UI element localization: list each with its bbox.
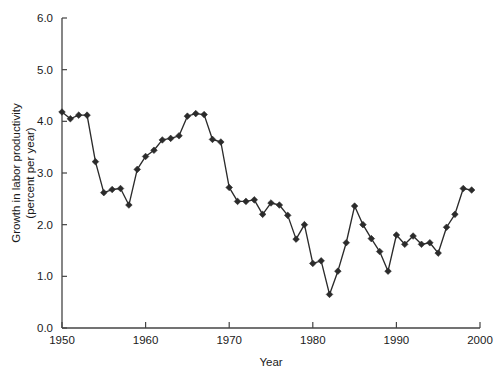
data-point: 1998: 2.7 [460,185,467,192]
y-tick-label-1.0: 1.0 [37,270,53,282]
x-tick-label-1970: 1970 [216,334,242,346]
data-point: 1996: 1.95 [443,224,450,231]
y-tick-label-0.0: 0.0 [37,322,53,334]
data-point: 1959: 3.07 [134,166,141,173]
data-point: 1957: 2.7 [117,185,124,192]
data-point: 1969: 3.6 [218,139,225,146]
line-chart: 0.01.02.03.04.05.06.01950196019701980199… [0,0,503,372]
chart-figure: 0.01.02.03.04.05.06.01950196019701980199… [0,0,503,372]
data-point: 1981: 1.3 [318,258,325,265]
data-point: 1966: 4.15 [192,110,199,117]
data-point: 1999: 2.67 [468,187,475,194]
data-point: 1963: 3.67 [167,135,174,142]
data-point: 1982: 0.65 [326,291,333,298]
data-point: 1983: 1.1 [335,268,342,275]
y-axis-title-line1: Growth in labor productivity [10,103,22,243]
data-point: 1956: 2.68 [109,186,116,193]
data-point: 1988: 1.48 [376,248,383,255]
data-point: 1968: 3.65 [209,136,216,143]
data-point: 1955: 2.62 [101,189,108,196]
data-point: 1954: 3.22 [92,158,99,165]
data-point: 1980: 1.25 [310,260,317,267]
y-tick-label-3.0: 3.0 [37,167,53,179]
data-point: 1989: 1.1 [385,268,392,275]
y-tick-label-6.0: 6.0 [37,12,53,24]
data-point: 1978: 1.72 [293,236,300,243]
x-tick-label-1980: 1980 [300,334,326,346]
data-point: 1987: 1.73 [368,235,375,242]
x-tick-label-2000: 2000 [467,334,493,346]
data-point: 1958: 2.38 [126,202,133,209]
x-tick-label-1960: 1960 [133,334,159,346]
data-point: 1986: 2 [360,221,367,228]
y-tick-label-5.0: 5.0 [37,64,53,76]
data-point: 1970: 2.72 [226,184,233,191]
data-point: 1997: 2.2 [452,211,459,218]
data-point: 1979: 2 [301,221,308,228]
y-tick-label-2.0: 2.0 [37,219,53,231]
data-point: 1953: 4.12 [84,112,91,119]
data-point: 1985: 2.36 [351,203,358,210]
x-tick-label-1950: 1950 [49,334,75,346]
data-point: 1972: 2.45 [243,198,250,205]
data-point: 1964: 3.72 [176,133,183,140]
x-tick-label-1990: 1990 [384,334,410,346]
y-axis-title: Growth in labor productivity(percent per… [10,103,36,243]
y-tick-label-4.0: 4.0 [37,115,53,127]
data-point: 1967: 4.13 [201,111,208,118]
data-point: 1984: 1.65 [343,239,350,246]
data-point: 1973: 2.48 [251,197,258,204]
y-axis-title-line2: (percent per year) [24,127,36,219]
data-point: 1971: 2.45 [234,198,241,205]
data-point: 1952: 4.12 [75,112,82,119]
series-line-productivity [62,112,472,294]
x-axis-title: Year [259,356,282,368]
data-point: 1965: 4.1 [184,113,191,120]
plot-area: 0.01.02.03.04.05.06.01950196019701980199… [10,12,493,368]
